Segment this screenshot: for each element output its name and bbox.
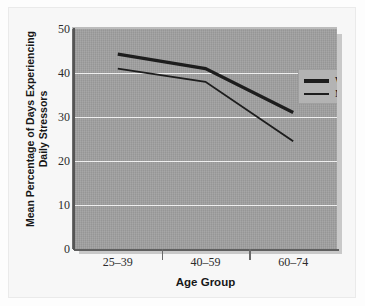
x-axis-tick-labels: 25–3940–5960–74 bbox=[74, 255, 337, 275]
x-axis-title: Age Group bbox=[74, 276, 337, 288]
series-lines bbox=[74, 29, 337, 249]
x-tick-label-1: 40–59 bbox=[191, 255, 221, 270]
legend-swatch-men-icon bbox=[304, 93, 329, 95]
y-axis-line bbox=[73, 28, 75, 250]
legend-swatch-women-icon bbox=[304, 79, 329, 83]
legend: Women Men bbox=[298, 69, 337, 104]
plot-area: Women Men bbox=[74, 29, 337, 249]
series-line-men bbox=[118, 69, 293, 142]
legend-label-men: Men bbox=[335, 88, 337, 99]
legend-item-women: Women bbox=[304, 74, 337, 87]
legend-item-men: Men bbox=[304, 87, 337, 100]
y-axis-title: Mean Percentage of Days ExperiencingDail… bbox=[24, 16, 50, 242]
chart-figure: 01020304050 Women Men 25–3940–5960–74 Me… bbox=[0, 0, 365, 306]
y-axis-title-line-2: Daily Stressors bbox=[37, 16, 50, 242]
x-tick-label-2: 60–74 bbox=[278, 255, 308, 270]
y-tick-label-0: 0 bbox=[46, 242, 70, 257]
legend-label-women: Women bbox=[335, 75, 337, 86]
x-tick-label-0: 25–39 bbox=[103, 255, 133, 270]
plot-bevel-bottom bbox=[74, 249, 339, 251]
y-axis-title-line-1: Mean Percentage of Days Experiencing bbox=[24, 16, 37, 242]
series-line-women bbox=[118, 54, 293, 113]
